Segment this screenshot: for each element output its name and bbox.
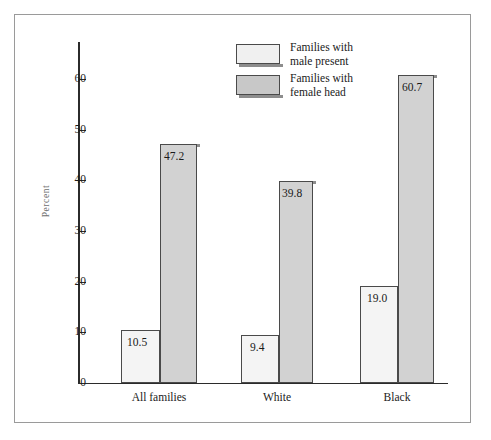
bar-value-white-female: 39.8 (282, 188, 302, 200)
y-axis-title: Percent (41, 151, 51, 251)
legend-item-male-present[interactable]: Families with male present (236, 41, 416, 69)
legend-dark-swatch-icon (236, 75, 280, 95)
legend-label-male-present-line1: Families with (290, 40, 353, 54)
bar-value-all-families-male: 10.5 (127, 337, 147, 349)
y-tick-label-10: 10 (60, 326, 86, 338)
legend-light-swatch-icon (236, 44, 280, 64)
legend: Families with male present Families with… (236, 41, 416, 103)
legend-swatch-shadow-dark (239, 95, 283, 98)
legend-label-female-head-line2: female head (290, 85, 353, 99)
x-category-label-all-families: All families (109, 391, 209, 403)
y-tick-label-0: 0 (60, 377, 86, 389)
x-category-label-black: Black (347, 391, 447, 403)
y-tick-label-20: 20 (60, 276, 86, 288)
y-tick-label-30: 30 (60, 225, 86, 237)
legend-label-female-head: Families with female head (290, 71, 353, 99)
legend-label-female-head-line1: Families with (290, 71, 353, 85)
legend-item-female-head[interactable]: Families with female head (236, 72, 416, 100)
legend-label-male-present: Families with male present (290, 40, 353, 68)
legend-label-male-present-line2: male present (290, 54, 353, 68)
y-tick-label-40: 40 (60, 174, 86, 186)
y-tick-label-60: 60 (60, 73, 86, 85)
bar-white-female[interactable] (279, 181, 313, 383)
bar-all-families-female[interactable] (160, 144, 197, 383)
bar-value-white-male: 9.4 (250, 342, 264, 354)
legend-swatch-shadow-light (239, 64, 283, 67)
chart-figure: Percent 60 50 40 30 20 10 0 (0, 0, 491, 440)
y-tick-label-50: 50 (60, 124, 86, 136)
bar-black-female[interactable] (398, 75, 434, 383)
x-category-label-white: White (227, 391, 327, 403)
plot-area: Percent 60 50 40 30 20 10 0 (0, 0, 491, 440)
bar-value-black-male: 19.0 (367, 293, 387, 305)
x-axis-line (78, 383, 448, 385)
bar-value-all-families-female: 47.2 (164, 151, 184, 163)
